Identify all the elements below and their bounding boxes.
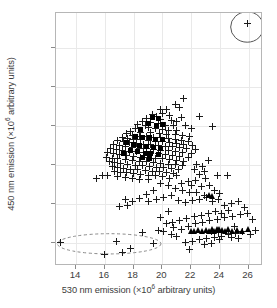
x-axis-title-pre: 530 nm emission (×10 — [62, 285, 152, 295]
outlier-ellipse — [57, 234, 161, 254]
x-tick-label: 22 — [175, 270, 205, 280]
y-axis-title-wrapper: 450 nm emission (×106 arbitrary units) — [0, 0, 20, 268]
x-tick-label: 14 — [60, 270, 90, 280]
x-axis-title: 530 nm emission (×106 arbitrary units) — [0, 283, 277, 295]
y-axis-title-pre: 450 nm emission (×10 — [6, 121, 16, 211]
x-axis-title-post: arbitrary units) — [155, 285, 215, 295]
x-tick-label: 18 — [118, 270, 148, 280]
x-tick-label: 24 — [204, 270, 234, 280]
x-tick-label: 26 — [233, 270, 263, 280]
scatter-plot-figure: 450 nm emission (×106 arbitrary units) 5… — [0, 0, 277, 308]
outlier-circle — [231, 12, 262, 42]
x-tick-label: 20 — [146, 270, 176, 280]
annotation-layer — [56, 13, 262, 265]
y-axis-title: 450 nm emission (×106 arbitrary units) — [4, 57, 16, 211]
y-axis-title-exponent: 6 — [4, 118, 11, 121]
y-axis-title-post: arbitrary units) — [6, 57, 16, 117]
plot-area — [55, 12, 262, 265]
x-tick-label: 16 — [89, 270, 119, 280]
